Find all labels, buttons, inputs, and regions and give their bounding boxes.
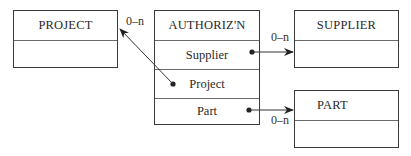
entity-part-title: PART: [295, 91, 398, 120]
field-part: Part: [155, 98, 259, 124]
entity-authorization: AUTHORIZ'N Supplier Project Part: [154, 10, 260, 125]
entity-project-title: PROJECT: [14, 11, 117, 40]
entity-project-body: [14, 40, 117, 67]
entity-project: PROJECT: [13, 10, 118, 68]
entity-supplier: SUPPLIER: [294, 10, 399, 68]
field-project: Project: [155, 69, 259, 98]
field-supplier: Supplier: [155, 40, 259, 69]
cardinality-project: 0–n: [126, 14, 144, 29]
entity-supplier-title: SUPPLIER: [295, 11, 398, 40]
cardinality-supplier: 0–n: [271, 30, 289, 45]
entity-part: PART: [294, 90, 399, 148]
entity-supplier-body: [295, 40, 398, 67]
cardinality-part: 0–n: [271, 113, 289, 128]
entity-authorization-title: AUTHORIZ'N: [155, 11, 259, 40]
entity-part-body: [295, 120, 398, 147]
